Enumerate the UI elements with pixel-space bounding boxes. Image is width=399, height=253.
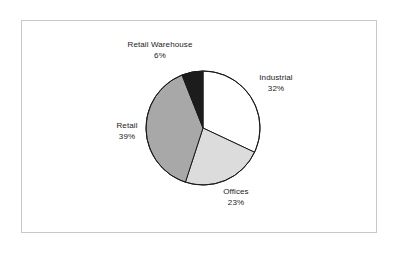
pie-label-retail-name: Retail [104,120,150,131]
pie-label-industrial: Industrial 32% [244,72,308,94]
pie-chart-graphic [0,0,399,253]
pie-label-offices-value: 23% [206,197,266,208]
pie-label-retail-warehouse-name: Retail Warehouse [108,39,212,50]
pie-label-industrial-name: Industrial [244,72,308,83]
pie-label-offices-name: Offices [206,186,266,197]
pie-label-retail-value: 39% [104,131,150,142]
pie-chart-figure: Retail Warehouse 6% Industrial 32% Retai… [0,0,399,253]
pie-label-industrial-value: 32% [244,83,308,94]
pie-label-offices: Offices 23% [206,186,266,208]
pie-label-retail-warehouse: Retail Warehouse 6% [108,39,212,61]
pie-label-retail-warehouse-value: 6% [108,50,212,61]
pie-label-retail: Retail 39% [104,120,150,142]
